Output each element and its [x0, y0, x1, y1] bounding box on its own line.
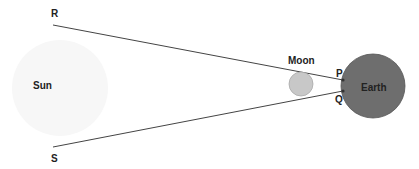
- point-Q-marker: [341, 89, 344, 92]
- sun-disc: [12, 40, 108, 136]
- label-earth: Earth: [361, 82, 387, 93]
- sun-moon-earth-diagram: R S Sun Moon P Q Earth: [0, 0, 419, 169]
- moon-disc: [289, 72, 313, 96]
- label-P: P: [336, 68, 343, 79]
- label-R: R: [51, 8, 59, 19]
- label-S: S: [51, 153, 58, 164]
- label-sun: Sun: [33, 80, 52, 91]
- label-Q: Q: [335, 94, 343, 105]
- label-moon: Moon: [288, 55, 315, 66]
